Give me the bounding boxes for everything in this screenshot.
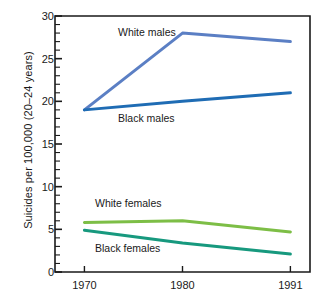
axis-frame [55, 16, 310, 272]
series-label-white-females: White females [95, 198, 162, 209]
series-lines [84, 33, 290, 254]
series-label-black-females: Black females [95, 243, 160, 254]
axis-ticks [55, 16, 290, 272]
suicide-rate-line-chart: Suicides per 100,000 (20–24 years) 05101… [0, 0, 325, 304]
series-label-white-males: White males [118, 27, 176, 38]
plot-area [0, 0, 325, 304]
series-label-black-males: Black males [118, 113, 175, 124]
